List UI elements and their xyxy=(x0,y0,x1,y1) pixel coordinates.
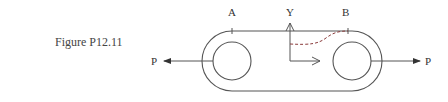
label-y: Y xyxy=(286,6,294,18)
left-hole xyxy=(213,42,251,80)
diagram-canvas: A B Y P P xyxy=(0,0,448,102)
label-a: A xyxy=(228,6,236,18)
figure-p12-11: Figure P12.11 A B Y P xyxy=(0,0,448,102)
right-hole xyxy=(333,42,371,80)
label-b: B xyxy=(342,6,349,18)
dashed-section-curve xyxy=(290,31,348,44)
label-p-left: P xyxy=(151,55,157,67)
figure-caption: Figure P12.11 xyxy=(55,35,123,50)
label-p-right: P xyxy=(425,55,431,67)
